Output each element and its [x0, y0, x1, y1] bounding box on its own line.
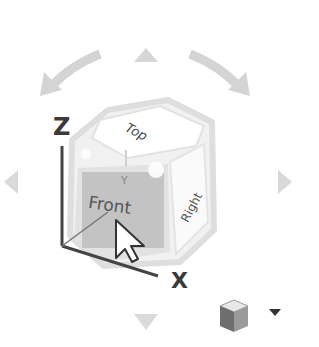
viewcube-widget: Z X Y Top Front Right: [0, 0, 319, 347]
y-axis-label: Y: [121, 174, 128, 187]
mouse-cursor-icon: [114, 218, 150, 264]
chevron-down-icon[interactable]: [268, 308, 282, 318]
home-cube-icon: [216, 298, 252, 334]
x-axis-label: X: [171, 268, 188, 293]
y-axis-line: [62, 212, 108, 246]
viewcube-menu-button[interactable]: [214, 294, 294, 334]
z-axis-label: Z: [53, 113, 70, 141]
